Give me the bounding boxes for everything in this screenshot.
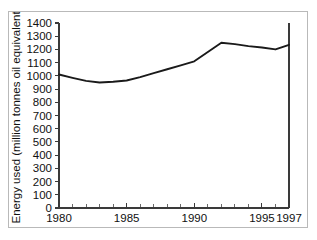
chart-figure: 0100200300400500600700800900100011001200… [8,11,308,228]
series-line [59,43,289,83]
x-axis-tick-labels: 19801985199019951997 [46,212,302,224]
y-tick-label: 900 [33,83,52,95]
y-tick-label: 300 [33,162,52,174]
y-tick-label: 400 [33,149,52,161]
y-tick-label: 1200 [26,43,52,55]
y-tick-label: 800 [33,96,52,108]
x-tick-label: 1980 [46,212,72,224]
chart-plot-area: 0100200300400500600700800900100011001200… [9,12,307,227]
y-axis-title-text: Energy used (million tonnes oil equivale… [10,12,22,224]
y-tick-label: 1300 [26,30,52,42]
chart-title-strip [0,0,317,10]
y-tick-label: 200 [33,176,52,188]
y-tick-label: 1100 [27,57,52,69]
x-tick-label: 1997 [276,212,302,224]
y-tick-label: 1400 [26,17,52,29]
x-tick-label: 1995 [249,212,275,224]
y-tick-label: 500 [33,136,52,148]
y-tick-label: 1000 [26,70,52,82]
chart-axes [59,23,289,208]
x-axis-tick-marks [59,203,289,208]
chart-series-lines [59,43,289,83]
y-tick-label: 600 [33,123,52,135]
y-tick-label: 700 [33,110,52,122]
x-tick-label: 1990 [181,212,207,224]
x-tick-label: 1985 [114,212,140,224]
y-axis-title: Energy used (million tonnes oil equivale… [10,12,22,224]
y-axis-tick-labels: 0100200300400500600700800900100011001200… [26,17,52,214]
y-tick-label: 100 [33,189,52,201]
